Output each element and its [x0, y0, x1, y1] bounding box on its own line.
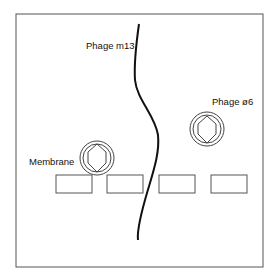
membrane-block-2	[107, 175, 143, 193]
diagram-canvas	[0, 0, 277, 280]
phage-m13-filament	[135, 24, 159, 240]
label-phage-m13: Phage m13	[86, 40, 135, 51]
membrane-block-3	[159, 175, 195, 193]
label-membrane: Membrane	[29, 156, 74, 167]
phage-phi6-bound	[80, 141, 114, 175]
phage-phi6-free	[190, 112, 224, 146]
label-phage-phi6: Phage ø6	[212, 96, 253, 107]
membrane-block-4	[211, 175, 247, 193]
membrane-block-1	[56, 175, 92, 193]
outer-frame	[16, 14, 263, 267]
